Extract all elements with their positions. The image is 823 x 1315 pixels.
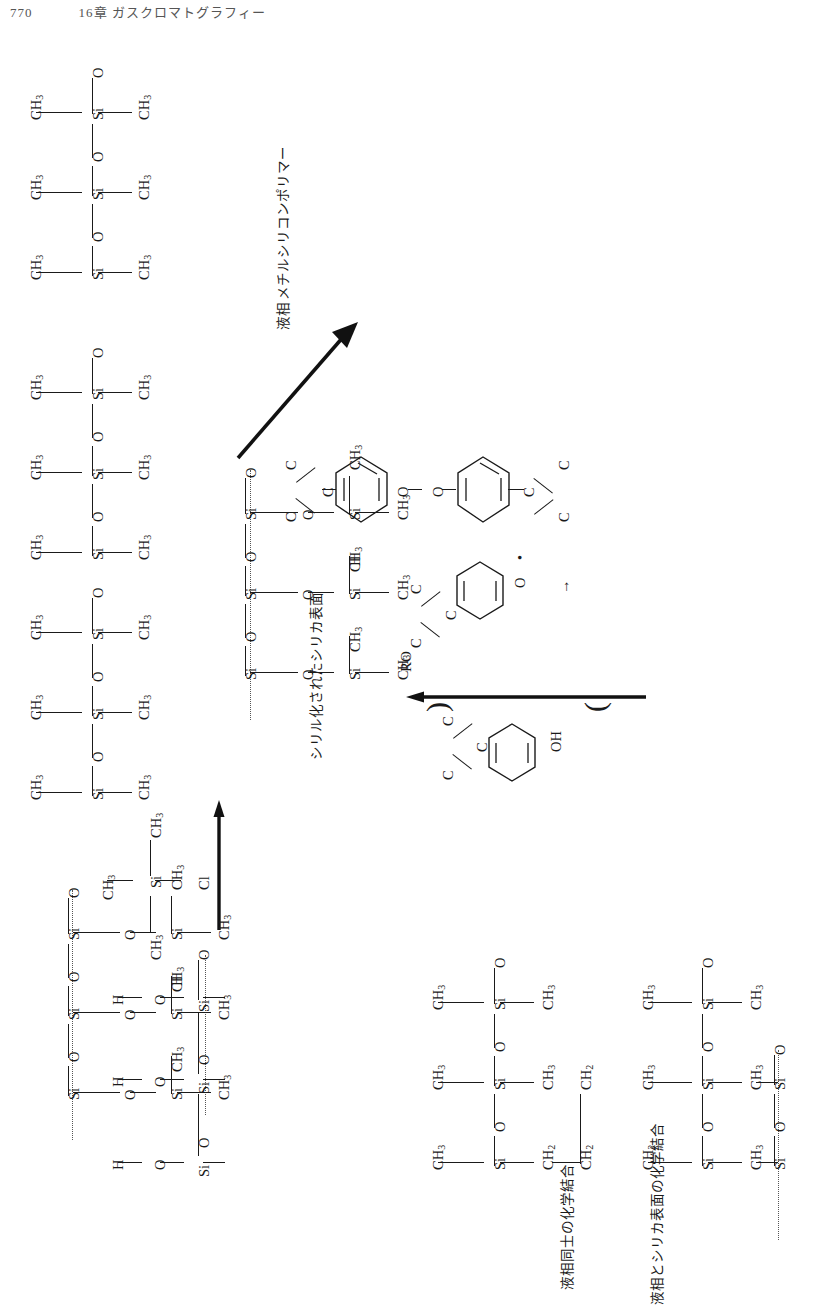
atom-ch3-pb-4: CH3: [136, 375, 153, 400]
bond: [95, 932, 120, 933]
atom-ch3-pa-3: CH3: [28, 255, 45, 280]
atom-c-radical-quat: C: [443, 610, 460, 620]
bond: [420, 622, 440, 638]
bond: [92, 644, 93, 678]
bond: [245, 604, 246, 638]
atom-ch3-pc-1: CH3: [28, 615, 45, 640]
bond: [648, 1082, 692, 1083]
atom-c-phenol-b: C: [440, 770, 457, 780]
bond: [250, 672, 272, 673]
bond: [36, 192, 82, 193]
paren-open: (: [578, 702, 612, 712]
atom-ch3-pc-3: CH3: [28, 775, 45, 800]
bond: [250, 592, 272, 593]
bond: [494, 1094, 495, 1128]
bond: [580, 1094, 581, 1164]
bond: [98, 112, 132, 113]
bond: [92, 78, 93, 114]
bond: [118, 997, 142, 998]
bond: [452, 754, 472, 770]
bond: [494, 1014, 495, 1048]
bond: [95, 1092, 120, 1093]
atom-ch3-pc-4: CH3: [136, 615, 153, 640]
bond: [500, 1162, 534, 1163]
atom-ch3-x1-2: CH3: [430, 1065, 447, 1090]
atom-ch3-x1-5: CH3: [540, 1065, 557, 1090]
bond: [73, 1092, 95, 1093]
bond: [118, 1079, 142, 1080]
bond: [68, 1066, 69, 1096]
bond: [702, 1014, 703, 1048]
atom-ch3-pb-5: CH3: [136, 455, 153, 480]
atom-ch3-pc-2: CH3: [28, 695, 45, 720]
bond: [355, 592, 389, 593]
bond: [92, 766, 93, 796]
label-silylated-silica-surface: シリル化されたシリカ表面: [305, 592, 325, 760]
bond: [442, 489, 456, 490]
bond: [355, 672, 389, 673]
atom-c-cumyl-top-a: C: [556, 460, 573, 470]
atom-ch3-x2-6: CH3: [748, 1145, 765, 1170]
bond: [92, 724, 93, 758]
bond: [534, 499, 554, 515]
bond: [36, 272, 82, 273]
bond: [73, 932, 95, 933]
bond: [177, 932, 211, 933]
atom-ch3-pa-6: CH3: [136, 255, 153, 280]
bond: [272, 672, 298, 673]
atom-ch2-bridge-2: CH2: [578, 1065, 595, 1090]
atom-ch3-pb-6: CH3: [136, 535, 153, 560]
atom-c-cumyl-bottom-b: C: [283, 512, 300, 522]
bond: [98, 272, 132, 273]
bond: [494, 1136, 495, 1166]
bond: [68, 1024, 69, 1058]
bond: [160, 1162, 184, 1163]
bond: [73, 1012, 95, 1013]
bond: [98, 632, 132, 633]
bond: [36, 472, 82, 473]
atom-ch3-pb-2: CH3: [28, 455, 45, 480]
atom-o-radical: O: [512, 578, 529, 588]
bond: [774, 1094, 775, 1128]
benzene-ring-bottom: [333, 455, 389, 525]
bond: [92, 404, 93, 438]
bond: [150, 840, 151, 876]
bond: [203, 1162, 225, 1163]
atom-c-cumyl-top-b: C: [556, 512, 573, 522]
bond: [98, 712, 132, 713]
bond: [92, 246, 93, 276]
bond: [494, 1056, 495, 1086]
atom-ch3-pc-5: CH3: [136, 695, 153, 720]
atom-ch3-x2-4: CH3: [748, 985, 765, 1010]
label-ro-radical: RO: [398, 651, 415, 672]
bond: [68, 898, 69, 934]
bond: [272, 592, 298, 593]
atom-ch3-rsilyl-1b: CH3: [216, 915, 233, 940]
bond: [245, 566, 246, 596]
atom-o-pa-top: O: [90, 68, 107, 78]
atom-o-chain-top: O: [196, 950, 213, 960]
atom-o-x2-top: O: [700, 958, 717, 968]
bond: [322, 489, 336, 490]
bond: [130, 1012, 156, 1013]
bond: [177, 1092, 211, 1093]
atom-si-reagent: Si: [148, 876, 165, 888]
bond: [92, 204, 93, 238]
page-running-head: 77016章 ガスクロマトグラフィー: [10, 2, 266, 21]
bond: [98, 392, 132, 393]
bond: [107, 880, 133, 881]
bond: [92, 686, 93, 716]
atom-ch3-pa-2: CH3: [28, 175, 45, 200]
bond: [130, 1092, 156, 1093]
reaction-arrow-silylation: [212, 800, 226, 930]
radical-arrow: →: [556, 580, 573, 595]
bond: [36, 712, 82, 713]
atom-si-3: Si: [196, 1165, 213, 1177]
bond: [36, 632, 82, 633]
benzene-ring-phenol: [487, 722, 537, 784]
bond: [92, 166, 93, 196]
bond: [702, 1136, 703, 1166]
atom-o-chain-1: O: [196, 1055, 213, 1065]
bond: [438, 1002, 484, 1003]
atom-si-1: Si: [196, 1000, 213, 1012]
